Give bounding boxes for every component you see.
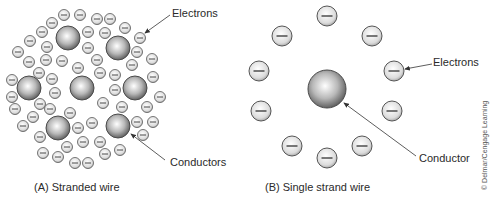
electron-icon (272, 26, 292, 46)
electrons-arrow-b (405, 64, 432, 69)
electron-icon (117, 102, 128, 113)
single-strand-wire-panel (249, 6, 404, 168)
conductor-icon (70, 76, 94, 100)
conductor-icon (56, 26, 80, 50)
electron-icon (249, 61, 269, 81)
electron-icon (100, 149, 111, 160)
electron-icon (148, 117, 159, 128)
electron-icon (382, 101, 402, 121)
electron-icon (147, 54, 158, 65)
stranded-wire-panel (7, 10, 166, 169)
electron-icon (57, 56, 68, 67)
caption-single-strand-wire: (B) Single strand wire (265, 182, 370, 193)
electron-icon (53, 152, 64, 163)
electron-icon (132, 47, 143, 58)
electron-icon (282, 136, 302, 156)
electron-icon (42, 42, 53, 53)
electron-icon (38, 148, 49, 159)
electron-icon (83, 27, 94, 38)
electron-icon (83, 158, 94, 169)
electron-icon (120, 23, 131, 34)
electron-icon (83, 43, 94, 54)
electron-icon (41, 55, 52, 66)
electron-icon (13, 47, 24, 58)
electron-icon (95, 68, 106, 79)
electron-icon (62, 142, 73, 153)
electron-icon (47, 74, 58, 85)
electron-icon (45, 104, 56, 115)
electron-icon (10, 104, 21, 115)
electron-icon (138, 130, 149, 141)
electron-icon (251, 101, 271, 121)
electron-icon (7, 75, 18, 86)
electrons-label-a: Electrons (172, 8, 218, 19)
electron-icon (135, 33, 146, 44)
electron-icon (34, 68, 45, 79)
electron-icon (50, 88, 61, 99)
electron-icon (78, 137, 89, 148)
conductor-label: Conductor (419, 153, 470, 164)
conductor-icon (106, 114, 130, 138)
electron-icon (35, 99, 46, 110)
electron-icon (87, 118, 98, 129)
electron-icon (105, 14, 116, 25)
conductor-icon (46, 116, 70, 140)
electron-icon (70, 158, 81, 169)
electron-icon (95, 137, 106, 148)
conductors-label: Conductors (170, 157, 226, 168)
electron-icon (317, 148, 337, 168)
conductor-icon (308, 70, 346, 108)
electron-icon (47, 18, 58, 29)
electron-icon (317, 6, 337, 26)
electron-icon (110, 70, 121, 81)
electron-icon (28, 112, 39, 123)
copyright-notice: © Delmar/Cengage Learning (481, 101, 488, 190)
electron-icon (24, 57, 35, 68)
electron-icon (142, 102, 153, 113)
electron-icon (18, 121, 29, 132)
electron-icon (127, 60, 138, 71)
electron-icon (73, 63, 84, 74)
electron-icon (100, 28, 111, 39)
electron-icon (7, 92, 18, 103)
electron-icon (362, 26, 382, 46)
electron-icon (92, 55, 103, 66)
electron-icon (25, 36, 36, 47)
electron-icon (92, 14, 103, 25)
electron-icon (75, 10, 86, 21)
caption-stranded-wire: (A) Stranded wire (34, 182, 120, 193)
electrons-arrow-a (145, 15, 170, 33)
electron-icon (148, 72, 159, 83)
diagram-stage: Electrons Conductors Electrons Conductor… (0, 0, 494, 199)
electron-icon (65, 108, 76, 119)
conductor-icon (106, 36, 130, 60)
conductor-icon (123, 76, 147, 100)
electron-icon (115, 145, 126, 156)
electron-icon (73, 123, 84, 134)
electron-icon (110, 85, 121, 96)
electron-icon (132, 117, 143, 128)
wire-diagram-figure (0, 0, 494, 199)
electron-icon (35, 132, 46, 143)
electrons-label-b: Electrons (433, 57, 479, 68)
electron-icon (37, 27, 48, 38)
electron-icon (59, 10, 70, 21)
electron-icon (155, 92, 166, 103)
electron-icon (384, 61, 404, 81)
conductor-icon (17, 76, 41, 100)
electron-icon (352, 136, 372, 156)
electron-icon (98, 98, 109, 109)
